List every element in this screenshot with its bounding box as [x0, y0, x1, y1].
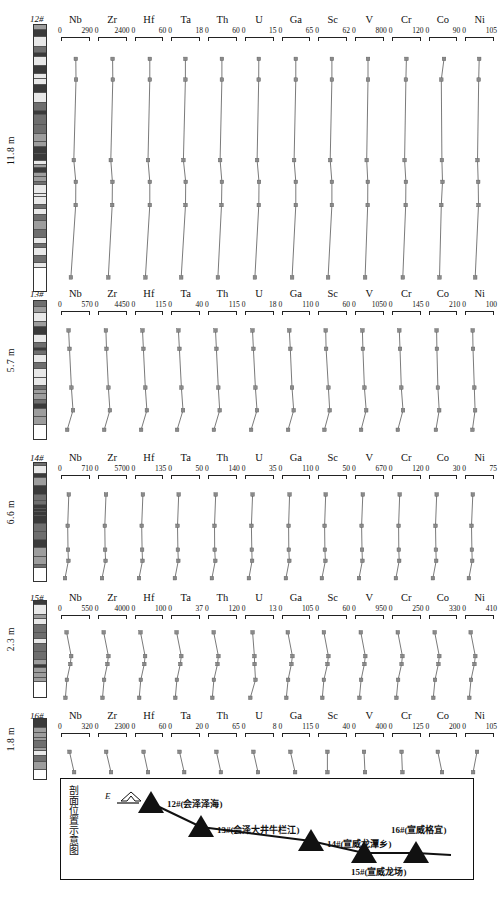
axis-min: 0 — [389, 722, 393, 732]
element-label-U: U — [241, 710, 278, 721]
element-panel-Ga-16: Ga0115 — [278, 0, 315, 906]
element-label-Cr: Cr — [388, 710, 425, 721]
axis-scale-Zr: 02300 — [94, 722, 131, 732]
axis-min: 0 — [95, 722, 99, 732]
lithology-cell — [34, 678, 46, 682]
axis-scale-V: 0400 — [351, 722, 388, 732]
stratigraphic-log-15 — [33, 600, 47, 698]
axis-bracket-Co — [429, 733, 458, 737]
element-label-Ni: Ni — [461, 710, 498, 721]
lithology-cell — [34, 115, 46, 125]
axis-min: 0 — [58, 722, 62, 732]
element-panel-Sc-16: Sc040 — [314, 0, 351, 906]
axis-bracket-Ta — [171, 733, 200, 737]
lithology-cell — [34, 565, 46, 568]
axis-min: 0 — [168, 722, 172, 732]
axis-max: 20 — [196, 722, 204, 732]
stratigraphic-log-16 — [33, 718, 47, 780]
curve-plot-U-16 — [241, 746, 278, 778]
lithology-cell — [34, 524, 46, 532]
lithology-cell — [34, 355, 46, 363]
curve-plot-Zr-16 — [94, 746, 131, 778]
lithology-cell — [34, 147, 46, 154]
element-panel-Nb-16: Nb0320 — [57, 0, 94, 906]
curve-plot-V-16 — [351, 746, 388, 778]
section-thickness-16: 1.8 m — [6, 727, 16, 751]
inset-site-label-15: 15#(宣威龙场) — [351, 865, 407, 878]
lithology-cell — [34, 93, 46, 103]
lithology-cell — [34, 327, 46, 335]
stratigraphic-log-12 — [33, 24, 47, 292]
axis-scale-Ni: 0105 — [461, 722, 498, 732]
lithology-cell — [34, 85, 46, 93]
lithology-cell — [34, 548, 46, 557]
lithology-cell — [34, 741, 46, 748]
axis-scale-Th: 065 — [204, 722, 241, 732]
lithology-cell — [34, 378, 46, 386]
axis-max: 105 — [486, 722, 497, 732]
lithology-cell — [34, 263, 46, 268]
axis-max: 8 — [273, 722, 277, 732]
axis-scale-Sc: 040 — [314, 722, 351, 732]
axis-bracket-V — [355, 733, 384, 737]
section-thickness-12: 11.8 m — [6, 136, 16, 165]
lithology-cell — [34, 134, 46, 142]
stratigraphic-log-13 — [33, 300, 47, 440]
axis-scale-U: 08 — [241, 722, 278, 732]
element-label-Zr: Zr — [94, 710, 131, 721]
curve-plot-Sc-16 — [314, 746, 351, 778]
axis-max: 40 — [343, 722, 351, 732]
axis-scale-Ga: 0115 — [278, 722, 315, 732]
lithology-cell — [34, 486, 46, 495]
lithology-cell — [34, 540, 46, 548]
inset-site-label-12: 12#(会泽泽海) — [167, 797, 223, 810]
axis-bracket-U — [245, 733, 274, 737]
axis-bracket-Th — [208, 733, 237, 737]
section-id-13: 13# — [30, 289, 44, 299]
axis-scale-Ta: 020 — [167, 722, 204, 732]
stratigraphic-log-14 — [33, 462, 47, 582]
axis-bracket-Cr — [392, 733, 421, 737]
lithology-cell — [34, 652, 46, 660]
axis-bracket-Ni — [465, 733, 494, 737]
axis-scale-Co: 0200 — [425, 722, 462, 732]
axis-min: 0 — [242, 722, 246, 732]
axis-max: 400 — [376, 722, 387, 732]
lithology-cell — [34, 103, 46, 111]
element-label-Ga: Ga — [278, 710, 315, 721]
lithology-cell — [34, 37, 46, 47]
curve-plot-Cr-16 — [388, 746, 425, 778]
lithology-cell — [34, 625, 46, 633]
axis-min: 0 — [352, 722, 356, 732]
axis-max: 65 — [232, 722, 240, 732]
element-panel-Ta-16: Ta020 — [167, 0, 204, 906]
section-thickness-15: 2.3 m — [6, 627, 16, 651]
lithology-cell — [34, 125, 46, 134]
lithology-cell — [34, 762, 46, 770]
section-thickness-14: 6.6 m — [6, 500, 16, 524]
element-panel-V-16: V0400 — [351, 0, 388, 906]
element-panel-Ni-16: Ni0105 — [461, 0, 498, 906]
inset-site-label-14: 14#(宣威龙潭乡) — [327, 837, 392, 850]
lithology-cell — [34, 197, 46, 205]
axis-min: 0 — [426, 722, 430, 732]
lithology-cell — [34, 313, 46, 322]
element-label-Hf: Hf — [131, 710, 168, 721]
section-location-inset: 剖面位置示意图E12#(会泽泽海)13#(会泽大井牛栏江)14#(宣威龙潭乡)1… — [60, 778, 474, 880]
element-panel-Cr-16: Cr0125 — [388, 0, 425, 906]
curve-plot-Hf-16 — [131, 746, 168, 778]
curve-plot-Ta-16 — [167, 746, 204, 778]
element-panel-U-16: U08 — [241, 0, 278, 906]
axis-max: 60 — [159, 722, 167, 732]
curve-plot-Ga-16 — [278, 746, 315, 778]
axis-max: 2300 — [115, 722, 130, 732]
axis-max: 115 — [302, 722, 313, 732]
axis-min: 0 — [315, 722, 319, 732]
element-label-Sc: Sc — [314, 710, 351, 721]
axis-min: 0 — [132, 722, 136, 732]
lithology-cell — [34, 185, 46, 194]
axis-scale-Cr: 0125 — [388, 722, 425, 732]
axis-bracket-Sc — [318, 733, 347, 737]
axis-max: 125 — [412, 722, 423, 732]
lithology-cell — [34, 57, 46, 66]
